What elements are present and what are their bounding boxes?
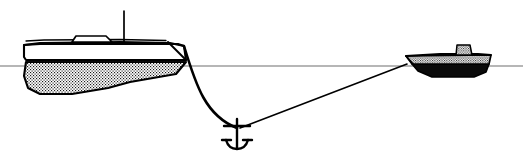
right-vessel-topsides xyxy=(406,55,491,64)
right-vessel-deckhouse xyxy=(456,45,472,55)
left-vessel-topsides xyxy=(24,44,186,60)
right-vessel xyxy=(406,45,491,77)
right-rode-taut xyxy=(240,64,407,128)
left-vessel xyxy=(24,11,186,94)
right-vessel-bottom xyxy=(412,64,489,77)
left-rode-catenary xyxy=(184,46,237,128)
left-vessel-cabin xyxy=(72,36,112,42)
left-vessel-underwater-hull xyxy=(24,62,186,94)
scene-svg xyxy=(0,0,523,156)
anchoring-illustration xyxy=(0,0,523,156)
